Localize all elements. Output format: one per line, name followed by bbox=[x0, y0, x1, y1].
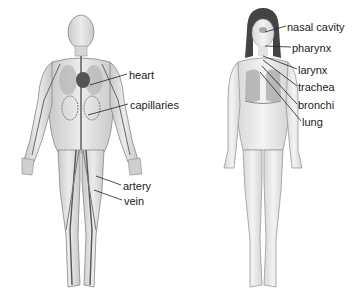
label-capillaries: capillaries bbox=[130, 99, 179, 111]
respiratory-figure bbox=[224, 8, 302, 287]
label-heart: heart bbox=[129, 69, 154, 81]
label-bronchi: bronchi bbox=[298, 99, 334, 111]
label-artery: artery bbox=[123, 180, 151, 192]
label-lung: lung bbox=[302, 116, 323, 128]
label-trachea: trachea bbox=[298, 81, 335, 93]
label-vein: vein bbox=[124, 195, 144, 207]
circulatory-figure bbox=[22, 15, 142, 287]
label-larynx: larynx bbox=[298, 64, 327, 76]
label-nasal-cavity: nasal cavity bbox=[287, 21, 344, 33]
label-pharynx: pharynx bbox=[292, 42, 331, 54]
